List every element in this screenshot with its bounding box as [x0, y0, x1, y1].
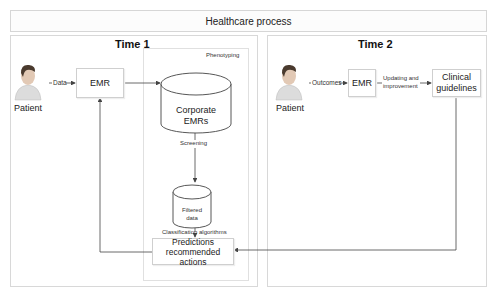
data-arrow-label: Data — [53, 79, 67, 86]
screening-label: Screening — [180, 140, 207, 146]
patient2-label: Patient — [276, 103, 304, 113]
emr-label: EMR — [352, 78, 372, 89]
emr-box-time1: EMR — [76, 68, 124, 98]
predictions-box: Predictions recommended actions — [152, 238, 234, 265]
emr-label: EMR — [90, 78, 110, 89]
updating-label: Updating and improvement — [383, 74, 419, 90]
corporate-emrs-label: Corporate EMRs — [161, 105, 231, 127]
emr-box-time2: EMR — [348, 69, 376, 97]
patient-icon — [15, 65, 41, 100]
outcomes-arrow-label: Outcomes — [312, 79, 342, 86]
patient1-label: Patient — [14, 103, 42, 113]
filtered-data-label: Filtered data — [173, 206, 211, 222]
classification-label: Classification algorithms — [162, 229, 227, 235]
patient-icon — [276, 65, 302, 100]
diagram-connectors — [0, 0, 497, 294]
clinical-guidelines-box: Clinical guidelines — [432, 69, 481, 97]
